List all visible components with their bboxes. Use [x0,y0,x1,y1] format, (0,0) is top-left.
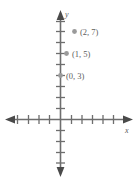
x-axis-left-arrow-icon [5,116,15,124]
data-point-label-2-7: (2, 7) [80,27,99,37]
data-point-dot-0-3 [58,73,63,78]
data-point-dot-1-5 [64,51,69,56]
coordinate-plane-figure: y x (2, 7) (1, 5) (0, 3) [0,0,139,181]
x-axis-label: x [124,126,129,135]
y-axis-label: y [64,10,69,19]
x-axis-right-arrow-icon [123,116,133,124]
y-axis-up-arrow-icon [57,10,65,20]
data-point-dot-2-7 [72,29,77,34]
data-point-label-1-5: (1, 5) [72,49,91,59]
y-axis-down-arrow-icon [57,167,65,177]
data-point-label-0-3: (0, 3) [66,71,85,81]
coordinate-plane-svg: y x (2, 7) (1, 5) (0, 3) [0,0,139,181]
